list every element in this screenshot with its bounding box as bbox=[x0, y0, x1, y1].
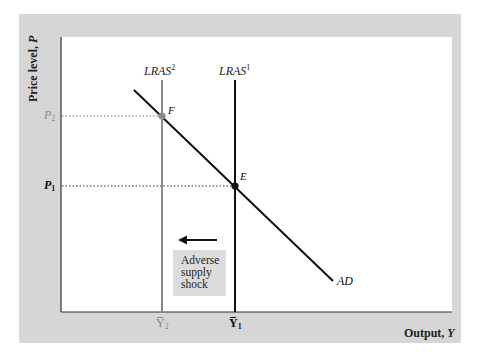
lras2-label-sup: 2 bbox=[171, 63, 175, 72]
shift-left-arrow-icon bbox=[178, 236, 217, 245]
tick-y1-base: Y bbox=[229, 316, 238, 331]
lras2-label: LRAS2 bbox=[144, 63, 175, 79]
tick-y1-sub: 1 bbox=[238, 322, 242, 331]
tick-y2-sub: 2 bbox=[165, 322, 169, 331]
lras1-label-sup: 1 bbox=[246, 63, 250, 72]
y-axis-title-text: Price level, bbox=[26, 43, 40, 102]
lras2-label-text: LRAS bbox=[144, 64, 171, 78]
x-axis-title-var: Y bbox=[447, 326, 454, 340]
point-e-label: E bbox=[240, 170, 247, 182]
point-f-label: F bbox=[168, 104, 175, 116]
annotation-line-3: shock bbox=[181, 278, 226, 290]
lras1-label-text: LRAS bbox=[219, 64, 246, 78]
tick-y2-base: Y bbox=[156, 316, 165, 331]
y-axis-title: Price level, P bbox=[26, 36, 41, 102]
tick-y1: Y1 bbox=[229, 316, 242, 331]
annotation-line-2: supply bbox=[181, 266, 226, 278]
annotation-line-1: Adverse bbox=[181, 254, 226, 266]
ad-label-text: AD bbox=[337, 274, 353, 288]
y-axis-title-var: P bbox=[26, 36, 40, 43]
tick-p1-sub: 1 bbox=[51, 184, 55, 193]
tick-p2-sub: 2 bbox=[51, 114, 55, 123]
point-e-label-text: E bbox=[240, 170, 247, 182]
x-axis-title: Output, Y bbox=[404, 326, 455, 341]
tick-y2: Y2 bbox=[156, 316, 169, 331]
tick-p2: P2 bbox=[44, 108, 55, 123]
point-e bbox=[231, 182, 238, 189]
lras1-label: LRAS1 bbox=[219, 63, 250, 79]
point-f bbox=[158, 112, 165, 119]
point-f-label-text: F bbox=[168, 104, 175, 116]
tick-p1: P1 bbox=[44, 178, 55, 193]
x-axis-title-text: Output, bbox=[404, 326, 447, 340]
ad-label: AD bbox=[337, 274, 353, 289]
adverse-supply-shock-box: Adverse supply shock bbox=[173, 250, 226, 296]
